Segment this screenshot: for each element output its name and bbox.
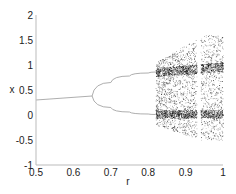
bifurcation-chart: 0.50.60.70.80.91 -1-0.500.511.52 r x (0, 0, 236, 194)
scatter-points (156, 35, 224, 140)
y-tick-label: -0.5 (16, 135, 34, 146)
y-tick-label: 2 (27, 10, 33, 21)
y-axis-label: x (10, 84, 15, 95)
y-tick-label: -1 (24, 160, 33, 171)
y-tick-label: 1.5 (19, 35, 33, 46)
y-tick-labels: -1-0.500.511.52 (16, 10, 34, 171)
bifurcation-branches (36, 72, 156, 115)
x-axis-label: r (126, 176, 130, 187)
x-tick-label: 0.9 (179, 167, 193, 178)
x-tick-label: 0.7 (104, 167, 118, 178)
x-tick-label: 0.8 (141, 167, 155, 178)
y-tick-label: 0 (27, 110, 33, 121)
x-tick-label: 1 (220, 167, 226, 178)
y-tick-label: 1 (27, 60, 33, 71)
y-tick-label: 0.5 (19, 85, 33, 96)
x-tick-label: 0.6 (66, 167, 80, 178)
